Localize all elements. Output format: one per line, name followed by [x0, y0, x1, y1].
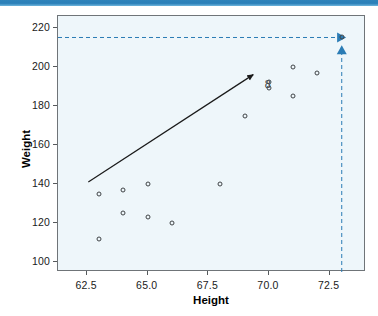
data-point: [291, 94, 296, 99]
y-tick-label: 100: [12, 255, 50, 267]
y-tick-mark: [53, 105, 57, 106]
data-point: [97, 191, 102, 196]
data-point: [121, 187, 126, 192]
x-tick-label: 67.5: [197, 279, 218, 291]
y-tick-label: 180: [12, 99, 50, 111]
y-tick-mark: [53, 144, 57, 145]
y-tick-label: 120: [12, 216, 50, 228]
data-point: [291, 64, 296, 69]
y-tick-mark: [53, 27, 57, 28]
data-point: [315, 70, 320, 75]
x-tick-mark: [147, 271, 148, 275]
y-tick-mark: [53, 261, 57, 262]
vertical-guide-head: [337, 45, 347, 54]
x-tick-mark: [86, 271, 87, 275]
x-tick-label: 62.5: [75, 279, 96, 291]
data-point: [169, 221, 174, 226]
x-tick-mark: [207, 271, 208, 275]
y-tick-mark: [53, 222, 57, 223]
data-point: [218, 182, 223, 187]
x-axis-label: Height: [57, 294, 365, 306]
plot-inner: 8: [58, 16, 364, 270]
x-tick-label: 72.5: [318, 279, 339, 291]
data-point: [339, 35, 344, 40]
x-tick-mark: [268, 271, 269, 275]
data-point: [97, 236, 102, 241]
y-tick-mark: [53, 183, 57, 184]
x-tick-mark: [329, 271, 330, 275]
x-tick-label: 65.0: [136, 279, 157, 291]
eight-label: 8: [265, 77, 271, 92]
trend-arrow: [88, 75, 253, 182]
y-tick-mark: [53, 66, 57, 67]
annotation-overlay: [58, 16, 366, 272]
data-point: [121, 211, 126, 216]
y-tick-label: 220: [12, 21, 50, 33]
data-point: [242, 113, 247, 118]
data-point: [145, 215, 150, 220]
scatter-plot-figure: 8 10012014016018020022062.565.067.570.07…: [0, 6, 378, 316]
y-tick-label: 200: [12, 60, 50, 72]
y-axis-label: Weight: [20, 119, 32, 179]
plot-area: 8: [57, 15, 365, 271]
data-point: [145, 182, 150, 187]
x-tick-label: 70.0: [257, 279, 278, 291]
